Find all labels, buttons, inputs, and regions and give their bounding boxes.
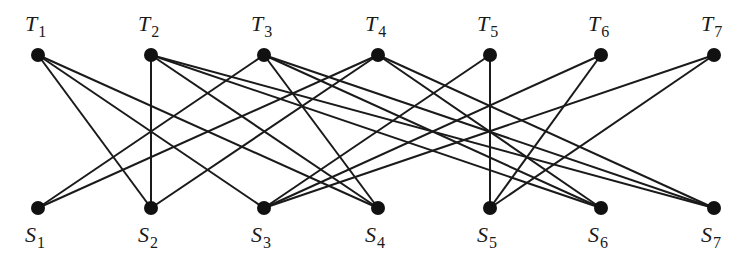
node-t3: [257, 48, 271, 62]
label-s3: S3: [251, 224, 271, 246]
node-t2: [144, 48, 158, 62]
label-letter: T: [588, 11, 600, 36]
label-subscript: 3: [264, 23, 272, 40]
label-s7: S7: [701, 224, 721, 246]
node-s4: [371, 201, 385, 215]
node-t6: [594, 48, 608, 62]
label-subscript: 7: [713, 234, 721, 251]
label-subscript: 6: [600, 234, 608, 251]
label-subscript: 4: [377, 234, 385, 251]
label-t6: T6: [588, 13, 609, 35]
label-s2: S2: [138, 224, 158, 246]
label-t1: T1: [25, 13, 46, 35]
node-t5: [483, 48, 497, 62]
label-letter: S: [25, 222, 36, 247]
node-s5: [483, 201, 497, 215]
label-letter: S: [365, 222, 376, 247]
label-s5: S5: [477, 224, 497, 246]
node-s6: [594, 201, 608, 215]
label-letter: S: [138, 222, 149, 247]
label-t5: T5: [477, 13, 498, 35]
label-subscript: 1: [37, 234, 45, 251]
edges-layer: [38, 55, 714, 208]
label-letter: T: [365, 11, 377, 36]
node-s7: [707, 201, 721, 215]
edge-t1-s2: [38, 55, 151, 208]
node-s2: [144, 201, 158, 215]
label-letter: S: [251, 222, 262, 247]
label-s6: S6: [588, 224, 608, 246]
label-subscript: 5: [489, 234, 497, 251]
label-subscript: 5: [490, 23, 498, 40]
label-subscript: 1: [38, 23, 46, 40]
label-letter: S: [701, 222, 712, 247]
label-subscript: 2: [151, 23, 159, 40]
label-subscript: 4: [378, 23, 386, 40]
label-t3: T3: [251, 13, 272, 35]
edge-t3-s4: [264, 55, 378, 208]
label-subscript: 2: [150, 234, 158, 251]
label-t2: T2: [138, 13, 159, 35]
label-s4: S4: [365, 224, 385, 246]
label-letter: T: [25, 11, 37, 36]
node-t1: [31, 48, 45, 62]
edge-t6-s5: [490, 55, 601, 208]
label-subscript: 6: [601, 23, 609, 40]
label-letter: T: [251, 11, 263, 36]
label-letter: S: [588, 222, 599, 247]
node-t4: [371, 48, 385, 62]
edge-t7-s5: [490, 55, 714, 208]
label-t4: T4: [365, 13, 386, 35]
node-t7: [707, 48, 721, 62]
label-subscript: 7: [714, 23, 722, 40]
graph-canvas: [0, 0, 749, 259]
bipartite-graph-diagram: T1T2T3T4T5T6T7S1S2S3S4S5S6S7: [0, 0, 749, 259]
node-s3: [257, 201, 271, 215]
label-letter: T: [701, 11, 713, 36]
label-letter: S: [477, 222, 488, 247]
label-subscript: 3: [263, 234, 271, 251]
label-s1: S1: [25, 224, 45, 246]
edge-t5-s3: [264, 55, 490, 208]
label-letter: T: [477, 11, 489, 36]
label-t7: T7: [701, 13, 722, 35]
label-letter: T: [138, 11, 150, 36]
node-s1: [31, 201, 45, 215]
